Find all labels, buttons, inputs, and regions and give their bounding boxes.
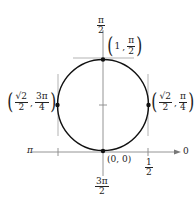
numerator: 3π bbox=[35, 92, 49, 102]
axis-label-right: 0 bbox=[183, 147, 189, 156]
denominator: 4 bbox=[180, 103, 186, 112]
comma: , bbox=[30, 99, 33, 108]
denominator: 4 bbox=[39, 103, 45, 112]
denominator: 2 bbox=[99, 187, 105, 196]
left-paren: ( bbox=[151, 91, 157, 113]
point-label-right: ( √22 , π4 ) bbox=[150, 91, 195, 113]
tick-label-half: 12 bbox=[145, 158, 153, 178]
axis-label-top: π2 bbox=[97, 16, 105, 36]
denominator: 2 bbox=[18, 103, 24, 112]
denominator: 2 bbox=[128, 47, 134, 56]
r-value: 1 bbox=[115, 42, 121, 51]
denominator: 2 bbox=[162, 103, 168, 112]
point-top bbox=[101, 57, 105, 61]
numerator: √2 bbox=[15, 92, 28, 102]
point-origin bbox=[101, 149, 105, 153]
comma: , bbox=[174, 99, 177, 108]
left-paren: ( bbox=[7, 91, 13, 113]
left-paren: ( bbox=[107, 35, 113, 57]
right-paren: ) bbox=[50, 91, 56, 113]
comma: , bbox=[122, 43, 125, 52]
numerator: π bbox=[179, 92, 187, 102]
axis-label-bottom: 3π2 bbox=[95, 177, 109, 197]
denominator: 2 bbox=[146, 168, 152, 177]
arrow-right-icon bbox=[174, 150, 181, 155]
point-label-top: ( 1 , π2 ) bbox=[106, 35, 144, 57]
axis-label-left: π bbox=[27, 146, 33, 155]
right-paren: ) bbox=[188, 91, 194, 113]
denominator: 2 bbox=[98, 26, 104, 35]
right-paren: ) bbox=[136, 35, 142, 57]
point-label-left: ( √22 , 3π4 ) bbox=[6, 91, 57, 113]
point-label-origin: (0, 0) bbox=[107, 155, 131, 164]
numerator: π bbox=[127, 36, 135, 46]
numerator: √2 bbox=[159, 92, 172, 102]
